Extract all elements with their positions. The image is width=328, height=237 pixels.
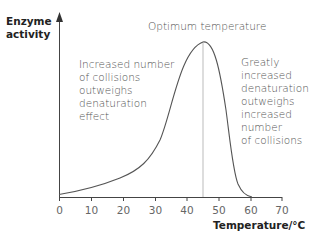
annotation-line: denaturation [241, 82, 328, 95]
annotation-line: Increased number [79, 58, 174, 71]
y-axis-title-line: Enzyme [6, 15, 50, 28]
annotation-line: outweighs [241, 95, 328, 108]
x-axis-title: Temperature/°C [213, 219, 305, 232]
y-axis-title-line: activity [6, 28, 50, 41]
x-tick-label: 10 [85, 204, 98, 216]
annotation-line: effect [79, 110, 174, 123]
optimum-temperature-label: Optimum temperature [148, 20, 266, 33]
y-axis-arrow-icon [56, 12, 63, 22]
x-tick-label: 0 [56, 204, 63, 216]
annotation-line: Greatly increased [241, 56, 328, 82]
x-tick-label: 30 [149, 204, 162, 216]
x-tick-label: 70 [275, 204, 288, 216]
annotation-line: of collisions [79, 71, 174, 84]
annotation-line: of collisions [241, 134, 328, 147]
x-tick-label: 20 [117, 204, 130, 216]
annotation-line: denaturation [79, 97, 174, 110]
annotation-line: increased number [241, 108, 328, 134]
annotation-line: outweighs [79, 84, 174, 97]
y-axis-title: Enzyme activity [6, 15, 50, 41]
left-region-annotation: Increased number of collisions outweighs… [79, 58, 174, 123]
x-tick-label: 60 [244, 204, 257, 216]
x-tick-label: 40 [180, 204, 193, 216]
right-region-annotation: Greatly increased denaturation outweighs… [241, 56, 328, 147]
x-tick-label: 50 [212, 204, 225, 216]
